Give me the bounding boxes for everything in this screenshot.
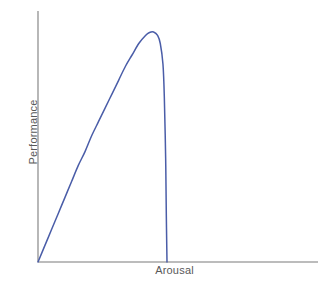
y-axis-label: Performance: [27, 52, 39, 212]
performance-curve: [38, 32, 167, 262]
arousal-performance-chart: Performance Arousal: [0, 0, 325, 289]
x-axis-label: Arousal: [0, 264, 325, 276]
chart-canvas: [0, 0, 325, 289]
